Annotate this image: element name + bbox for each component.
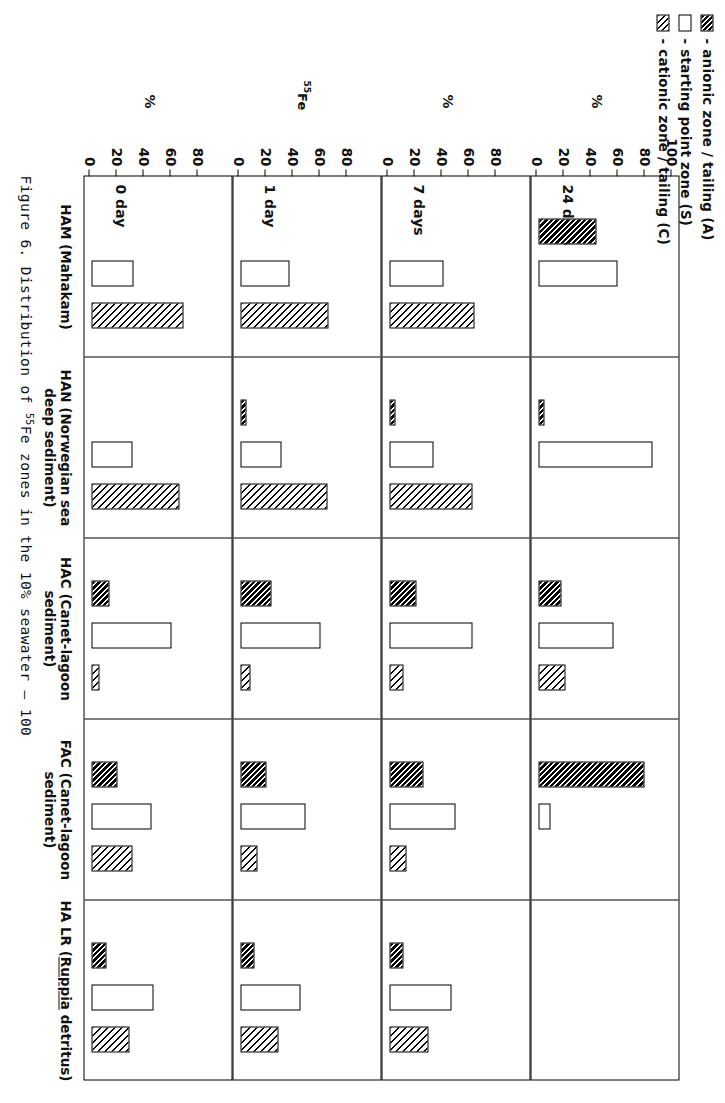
bar-group [233, 176, 380, 356]
axis-tick-label: 0 [379, 157, 395, 166]
bar-a [240, 399, 246, 425]
axis-tick [196, 169, 197, 176]
axis-tick [440, 169, 441, 176]
panel-cell-fac [531, 719, 678, 900]
bar-group [233, 900, 380, 1081]
panel-row: 020406080%7 days [381, 175, 530, 1080]
bar-s [389, 441, 433, 467]
sample-column-label-line1: HA LR (Ruppia detritus) [56, 874, 72, 1103]
axis-tick [237, 169, 238, 176]
panel-cell-han [84, 357, 231, 538]
axis-tick [616, 169, 617, 176]
figure-rotation-wrapper: -anionic zone / tailing (A)-starting poi… [0, 0, 725, 1103]
axis-tick-label: 20 [108, 147, 124, 166]
bar-group [531, 900, 678, 1081]
axis-tick-label: 40 [284, 147, 300, 166]
bar-s [389, 803, 456, 829]
bar-c [240, 1026, 278, 1052]
panel-cell-hac [382, 538, 529, 719]
axis-tick-label: 0 [230, 157, 246, 166]
axis-tick-label: 20 [555, 147, 571, 166]
bar-c [91, 483, 179, 509]
bar-s [91, 441, 132, 467]
axis-tick [142, 169, 143, 176]
bar-s [240, 260, 289, 286]
axis-tick [169, 169, 170, 176]
bar-s [538, 260, 617, 286]
panel-cell-halr [233, 900, 380, 1081]
bar-s [389, 984, 451, 1010]
legend-item-label: anionic zone / tailing (A) [699, 49, 715, 240]
panel-cell-fac [382, 719, 529, 900]
axis-tick-label: 80 [189, 147, 205, 166]
bar-group [382, 176, 529, 356]
caption-text: Distribution of 55Fe zones in the 10% se… [17, 266, 33, 735]
light-hatch-swatch [657, 14, 670, 31]
bar-group [531, 719, 678, 899]
bar-group [84, 538, 231, 718]
bar-c [240, 302, 328, 328]
bar-a [240, 761, 266, 787]
bar-a [389, 580, 416, 606]
axis-tick-label: 60 [311, 147, 327, 166]
panel-cell-ham [233, 176, 380, 357]
caption-number: Figure 6. [17, 175, 33, 257]
panel-row: 020406080100%24 days [530, 175, 679, 1080]
isotope-axis-label: 55Fe [294, 80, 310, 110]
bar-group [382, 719, 529, 899]
percent-axis-label: % [141, 94, 157, 108]
bar-group [531, 538, 678, 718]
bar-a [91, 761, 117, 787]
bar-c [389, 1026, 429, 1052]
bar-s [240, 803, 305, 829]
axis-tick-label: 20 [257, 147, 273, 166]
bar-group [84, 176, 231, 356]
bar-s [91, 260, 133, 286]
panel-cell-fac [233, 719, 380, 900]
axis-tick [494, 169, 495, 176]
bar-c [538, 664, 565, 690]
axis-tick-label: 80 [338, 147, 354, 166]
panel-cell-ham [84, 176, 231, 357]
bar-a [389, 399, 395, 425]
bar-group [382, 900, 529, 1081]
bar-a [389, 942, 403, 968]
white-swatch [679, 14, 692, 31]
axis-tick-label: 40 [433, 147, 449, 166]
panel-cell-han [233, 357, 380, 538]
bar-s [240, 441, 281, 467]
legend-dash: - [677, 38, 693, 44]
sample-column-label-line2: sediment) [40, 693, 56, 926]
axis-tick-label: 60 [609, 147, 625, 166]
axis-tick [535, 169, 536, 176]
axis-tick [643, 169, 644, 176]
dark-hatch-swatch [701, 14, 714, 31]
bar-s [91, 984, 153, 1010]
axis-tick [264, 169, 265, 176]
bar-s [91, 622, 171, 648]
bar-group [84, 719, 231, 899]
bar-c [91, 845, 132, 871]
bar-a [389, 761, 423, 787]
bar-c [240, 845, 257, 871]
bar-a [240, 580, 271, 606]
axis-tick-label: 0 [81, 157, 97, 166]
bar-group [84, 357, 231, 537]
panel-cell-ham [531, 176, 678, 357]
bar-s [538, 441, 652, 467]
axis-tick [670, 169, 671, 176]
axis-tick-label: 80 [636, 147, 652, 166]
axis-tick [589, 169, 590, 176]
panel-cell-hac [84, 538, 231, 719]
axis-tick-label: 60 [162, 147, 178, 166]
panel-cell-ham [382, 176, 529, 357]
bar-a [538, 399, 544, 425]
percent-axis-label: % [588, 94, 604, 108]
axis-tick [345, 169, 346, 176]
bar-group [531, 357, 678, 537]
bar-group [382, 357, 529, 537]
bar-c [240, 483, 327, 509]
axis-tick-label: 0 [528, 157, 544, 166]
panel-cell-hac [531, 538, 678, 719]
axis-tick-label: 100 [663, 138, 679, 166]
